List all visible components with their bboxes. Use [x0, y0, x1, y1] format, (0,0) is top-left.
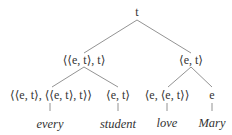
edge-l2left-det: [52, 67, 84, 87]
node-noun-type: ⟨e, t⟩: [106, 88, 130, 102]
edge-root-right: [137, 20, 191, 53]
edge-l2right-obj: [191, 67, 212, 87]
node-verb-type: ⟨e, ⟨e, t⟩⟩: [145, 88, 190, 102]
edge-l2left-noun: [84, 67, 118, 87]
edge-l2right-verb: [168, 67, 191, 87]
node-predicate-type: ⟨e, t⟩: [179, 53, 203, 67]
leaf-student: student: [100, 117, 136, 131]
edge-root-left: [84, 20, 137, 53]
leaf-every: every: [36, 117, 63, 131]
node-quantifier-type: ⟨⟨e, t⟩, t⟩: [63, 53, 106, 67]
leaf-love: love: [157, 116, 178, 130]
tree-edges: [0, 0, 232, 135]
root-node: t: [135, 5, 138, 19]
node-entity-type: e: [209, 88, 214, 102]
node-determiner-type: ⟨⟨e, t⟩, ⟨⟨e, t⟩, t⟩⟩: [10, 88, 92, 102]
leaf-mary: Mary: [198, 116, 225, 130]
